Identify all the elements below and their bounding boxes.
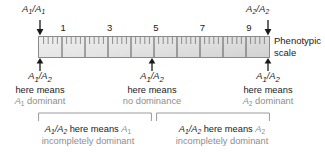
tick-label-9: 9 xyxy=(242,22,256,33)
tick-label-3: 3 xyxy=(103,22,117,33)
scale-caption-line2: scale xyxy=(274,47,321,59)
tick-label-1: 1 xyxy=(56,22,70,33)
bracket-right xyxy=(156,112,270,121)
explanation-right-line3: A2 dominant xyxy=(216,96,320,107)
bracket-left xyxy=(38,112,152,121)
bottom-arrow-right xyxy=(262,58,274,72)
explanation-right-line2: here means xyxy=(216,85,320,96)
explanation-middle: A1/A2 here means no dominance xyxy=(100,71,204,107)
explanation-left-line2: here means xyxy=(0,85,92,96)
tick-label-7: 7 xyxy=(195,22,209,33)
bracket-text-left-line1: A1/A2 here means A1 xyxy=(22,124,154,136)
top-right-genotype-label: A2/A2 xyxy=(246,3,269,14)
explanation-right-genotype: A1/A2 xyxy=(216,71,320,85)
ruler-ticks xyxy=(39,37,269,57)
top-left-genotype-label: A1/A1 xyxy=(22,3,45,14)
bracket-text-left-line2: incompletely dominant xyxy=(22,136,154,148)
top-left-arrow xyxy=(34,20,46,36)
explanation-middle-line2: here means xyxy=(100,85,204,96)
explanation-left-genotype: A1/A2 xyxy=(0,71,92,85)
scale-caption: Phenotypic scale xyxy=(274,35,321,58)
explanation-middle-line3: no dominance xyxy=(100,96,204,107)
bracket-text-left: A1/A2 here means A1 incompletely dominan… xyxy=(22,124,154,147)
explanation-left: A1/A2 here means A1 dominant xyxy=(0,71,92,107)
scale-caption-line1: Phenotypic xyxy=(274,35,321,47)
phenotypic-scale-figure: A1/A1 A2/A2 1 3 5 7 9 xyxy=(0,0,325,157)
explanation-left-line3: A1 dominant xyxy=(0,96,92,107)
bottom-arrow-left xyxy=(34,58,46,72)
bracket-text-right-line1: A1/A2 here means A2 xyxy=(158,124,286,136)
top-right-arrow xyxy=(262,20,274,36)
phenotypic-scale-bar xyxy=(38,36,270,58)
explanation-middle-genotype: A1/A2 xyxy=(100,71,204,85)
explanation-right: A1/A2 here means A2 dominant xyxy=(216,71,320,107)
tick-label-5: 5 xyxy=(149,22,163,33)
bottom-arrow-middle xyxy=(146,58,158,72)
bracket-text-right: A1/A2 here means A2 incompletely dominan… xyxy=(158,124,286,147)
bracket-text-right-line2: incompletely dominant xyxy=(158,136,286,148)
